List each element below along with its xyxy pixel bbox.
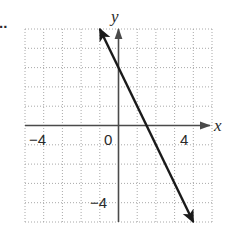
x-tick-label-0: 0 — [104, 131, 112, 148]
x-tick-label-4: 4 — [180, 131, 188, 148]
x-tick-label-neg4: −4 — [29, 131, 46, 148]
x-axis-label: x — [213, 116, 222, 135]
coordinate-plane-chart: .. x y −4 0 4 −4 — [0, 0, 234, 228]
y-tick-label-neg4: −4 — [90, 194, 107, 211]
corner-mark: .. — [0, 14, 7, 31]
y-axis-label: y — [109, 7, 119, 26]
